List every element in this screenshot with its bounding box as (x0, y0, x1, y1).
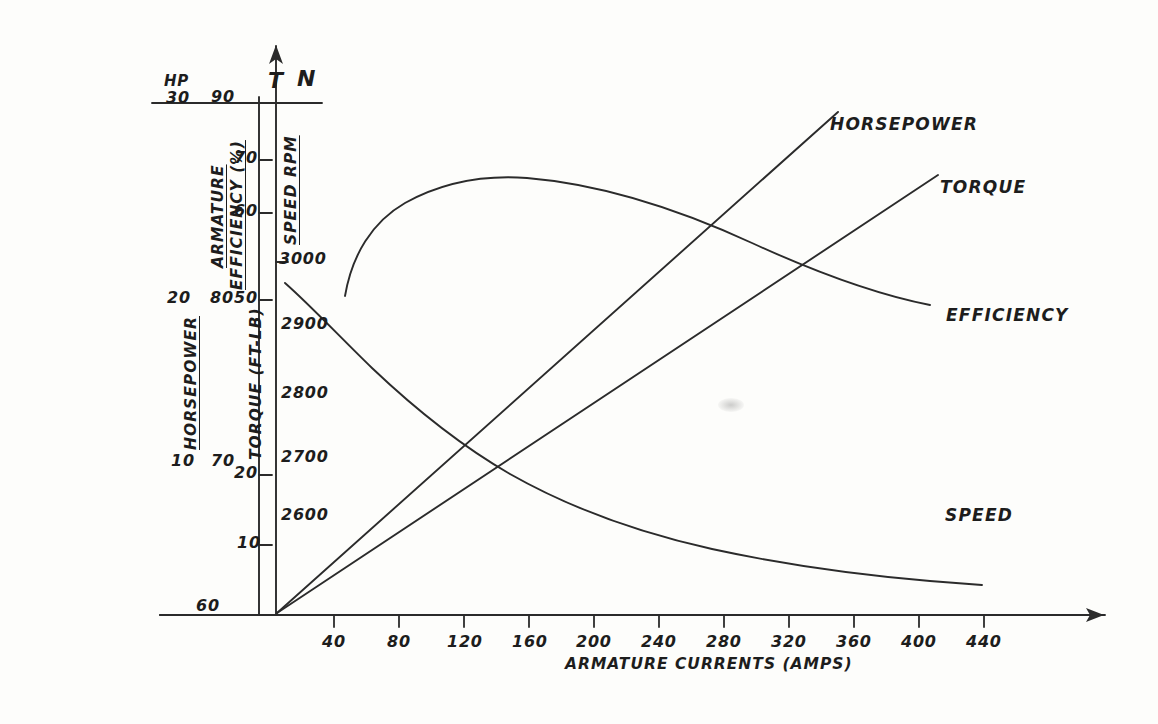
curve-label-torque: TORQUE (940, 177, 1026, 197)
speed-tick-2600: 2600 (281, 505, 329, 524)
x-axis-title: ARMATURE CURRENTS (AMPS) (565, 655, 853, 673)
curve-label-efficiency: EFFICIENCY (946, 305, 1069, 325)
x-tick-200: 200 (576, 632, 612, 651)
x-tick-440: 440 (966, 632, 1002, 651)
chart-canvas (0, 0, 1158, 724)
horsepower-axis-title: HORSEPOWER (182, 316, 200, 450)
x-tick-360: 360 (836, 632, 872, 651)
speed-tick-2800: 2800 (281, 383, 329, 402)
x-axis-ticks (334, 615, 984, 627)
torque-curve (277, 175, 938, 613)
torque-tick-50: 50 (234, 288, 258, 307)
x-tick-400: 400 (901, 632, 937, 651)
torque-tick-10: 10 (237, 533, 261, 552)
efficiency-curve (345, 177, 930, 305)
hp-tick-10: 10 (171, 451, 195, 470)
efficiency-tick-70: 70 (211, 451, 235, 470)
torque-axis-symbol: T (268, 68, 284, 93)
speed-tick-3000: 3000 (279, 249, 327, 268)
x-tick-320: 320 (771, 632, 807, 651)
curve-label-speed: SPEED (945, 505, 1013, 525)
x-tick-80: 80 (387, 632, 411, 651)
speed-curve (285, 283, 982, 585)
x-tick-120: 120 (447, 632, 483, 651)
speed-tick-2900: 2900 (281, 314, 329, 333)
armature-axis-title-line1: ARMATURE (209, 164, 227, 268)
curve-label-horsepower: HORSEPOWER (830, 114, 978, 134)
speed-axis-title: SPEED RPM (282, 135, 300, 245)
x-tick-240: 240 (641, 632, 677, 651)
efficiency-axis-title-line2: EFFICIENCY (%) (228, 140, 246, 290)
chart-page: HP 30 20 10 90 80 70 60 T N 70 60 50 20 … (0, 0, 1158, 724)
efficiency-tick-80: 80 (210, 288, 234, 307)
x-tick-280: 280 (706, 632, 742, 651)
speed-tick-2700: 2700 (281, 447, 329, 466)
efficiency-tick-60: 60 (196, 596, 220, 615)
x-tick-160: 160 (512, 632, 548, 651)
hp-tick-20: 20 (167, 288, 191, 307)
torque-axis-title: TORQUE (FT-LB) (247, 307, 265, 460)
speed-axis-symbol: N (297, 66, 316, 91)
horsepower-curve (277, 112, 838, 613)
hp-tick-30: 30 (166, 88, 190, 107)
x-tick-40: 40 (322, 632, 346, 651)
torque-tick-20: 20 (234, 463, 258, 482)
efficiency-tick-90: 90 (211, 87, 235, 106)
